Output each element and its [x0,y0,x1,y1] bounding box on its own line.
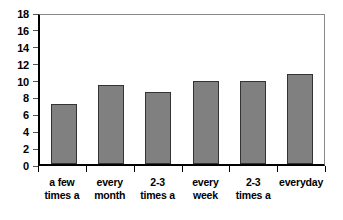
x-axis-category-label-line: 2-3 [134,176,182,189]
bar[interactable] [98,85,124,164]
x-axis-category-label-line: everyday [277,176,325,189]
x-axis-category-label: 2-3times a [229,176,277,202]
y-axis-tick: 8 [23,92,38,104]
y-axis: 181614121086420 [0,0,38,220]
y-axis-tick: 14 [17,42,38,54]
x-axis-ticks [38,166,325,172]
y-axis-tick: 18 [17,8,38,20]
bar-slot [40,15,87,164]
x-axis-tick-mark [86,166,87,172]
y-axis-tick-label: 14 [17,42,33,54]
bar[interactable] [145,92,171,164]
y-axis-tick: 2 [23,143,38,155]
x-axis-tick-mark [325,166,326,172]
y-axis-tick: 4 [23,126,38,138]
y-axis-tick-label: 4 [23,126,33,138]
bar-slot [277,15,324,164]
bar-slot [229,15,276,164]
x-axis-tick-mark [134,166,135,172]
bar[interactable] [51,104,77,164]
y-axis-tick: 16 [17,25,38,37]
x-axis-tick-mark [277,166,278,172]
y-axis-tick-label: 16 [17,25,33,37]
x-axis-category-label: a fewtimes a [38,176,86,202]
y-axis-tick: 12 [17,59,38,71]
y-axis-tick: 10 [17,76,38,88]
bar-slot [87,15,134,164]
y-axis-tick: 0 [23,160,38,172]
x-axis-category-label: everyweek [181,176,229,202]
y-axis-tick-label: 0 [23,160,33,172]
y-axis-tick-label: 10 [17,76,33,88]
bars-layer [40,15,324,164]
x-axis-labels: a fewtimes aeverymonth2-3times aeverywee… [38,176,325,202]
bar-slot [135,15,182,164]
x-axis-category-label-line: times a [134,189,182,202]
x-axis-category-label-line: 2-3 [229,176,277,189]
x-axis-tick-mark [182,166,183,172]
bar[interactable] [240,81,266,164]
y-axis-tick-label: 12 [17,59,33,71]
y-axis-tick-label: 2 [23,143,33,155]
plot-area [38,14,325,166]
x-axis-category-label: everyday [277,176,325,202]
y-axis-tick-label: 6 [23,109,33,121]
x-axis-category-label-line: month [86,189,134,202]
bar-chart: 181614121086420 a fewtimes aeverymonth2-… [0,0,343,220]
y-axis-tick-label: 8 [23,92,33,104]
x-axis-category-label-line: a few [38,176,86,189]
x-axis-category-label-line: week [181,189,229,202]
x-axis-category-label-line: times a [229,189,277,202]
x-axis-category-label-line: every [181,176,229,189]
bar-slot [182,15,229,164]
x-axis-category-label-line: times a [38,189,86,202]
y-axis-tick: 6 [23,109,38,121]
bar[interactable] [287,74,313,164]
bar[interactable] [193,81,219,164]
x-axis-category-label: 2-3times a [134,176,182,202]
x-axis-category-label: everymonth [86,176,134,202]
x-axis-tick-mark [38,166,39,172]
x-axis-category-label-line: every [86,176,134,189]
x-axis-tick-mark [229,166,230,172]
y-axis-tick-label: 18 [17,8,33,20]
